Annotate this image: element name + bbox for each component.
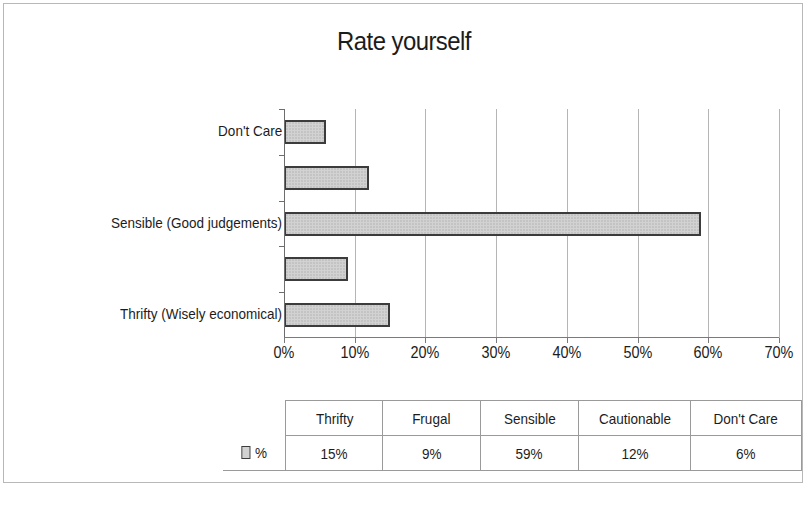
category-axis-tick [279, 155, 284, 156]
legend-series-label: % [255, 444, 267, 461]
table-column-header-label: Cautionable [599, 410, 671, 427]
table-header-row: ThriftyFrugalSensibleCautionableDon't Ca… [223, 401, 802, 436]
table-column-header-label: Don't Care [714, 410, 778, 427]
table-column-header-label: Frugal [412, 410, 450, 427]
table-corner-cell [223, 401, 286, 436]
category-axis-tick [279, 109, 284, 110]
table-cell-value: 15% [321, 445, 348, 462]
value-axis-tick-label: 30% [482, 344, 511, 362]
table-column-header: Cautionable [579, 401, 691, 436]
chart-frame: Rate yourself Thrifty (Wisely economical… [3, 3, 803, 483]
value-axis-tick-label: 0% [274, 344, 295, 362]
category-axis-labels: Thrifty (Wisely economical)Sensible (Goo… [14, 109, 282, 338]
value-axis-tick [425, 338, 426, 343]
value-axis-tick-label: 60% [694, 344, 723, 362]
category-axis-line [284, 109, 285, 338]
bar [284, 257, 348, 281]
table-column-header: Thrifty [286, 401, 383, 436]
table-cell: 6% [691, 436, 802, 471]
table-column-header: Frugal [383, 401, 480, 436]
bar [284, 166, 369, 190]
value-axis-labels: 0%10%20%30%40%50%60%70% [284, 344, 779, 370]
table-row: %15%9%59%12%6% [223, 436, 802, 471]
table-cell-value: 12% [621, 445, 648, 462]
category-axis-label: Thrifty (Wisely economical) [120, 305, 282, 322]
table-cell: 9% [383, 436, 480, 471]
value-axis-line [284, 337, 779, 338]
table-cell-value: 9% [422, 445, 442, 462]
table-cell: 12% [579, 436, 691, 471]
bar [284, 120, 326, 144]
gridline [779, 109, 780, 338]
value-axis-tick [284, 338, 285, 343]
category-axis-label: Sensible (Good judgements) [111, 214, 282, 231]
category-axis-tick [279, 246, 284, 247]
table-column-header: Sensible [480, 401, 579, 436]
table-column-header: Don't Care [691, 401, 802, 436]
legend-swatch-icon [241, 446, 250, 459]
table-cell: 15% [286, 436, 383, 471]
table-column-header-label: Sensible [504, 410, 556, 427]
table-legend-cell: % [223, 436, 286, 471]
category-axis-tick [279, 292, 284, 293]
value-axis-tick-label: 50% [623, 344, 652, 362]
value-axis-tick [708, 338, 709, 343]
data-table: ThriftyFrugalSensibleCautionableDon't Ca… [223, 400, 802, 471]
value-axis-tick-label: 40% [552, 344, 581, 362]
table-column-header-label: Thrifty [316, 410, 354, 427]
gridline [708, 109, 709, 338]
table-cell-value: 6% [736, 445, 756, 462]
plot-area [284, 109, 779, 338]
value-axis-tick [496, 338, 497, 343]
table-cell-value: 59% [516, 445, 543, 462]
value-axis-tick [355, 338, 356, 343]
table-cell: 59% [480, 436, 579, 471]
value-axis-tick-label: 10% [340, 344, 369, 362]
category-axis-tick [279, 201, 284, 202]
value-axis-tick [638, 338, 639, 343]
value-axis-tick [567, 338, 568, 343]
value-axis-tick [779, 338, 780, 343]
value-axis-tick-label: 70% [765, 344, 794, 362]
value-axis-tick-label: 20% [411, 344, 440, 362]
bar [284, 212, 701, 236]
category-axis-label: Don't Care [218, 122, 282, 139]
bar [284, 303, 390, 327]
chart-title: Rate yourself [36, 26, 772, 57]
